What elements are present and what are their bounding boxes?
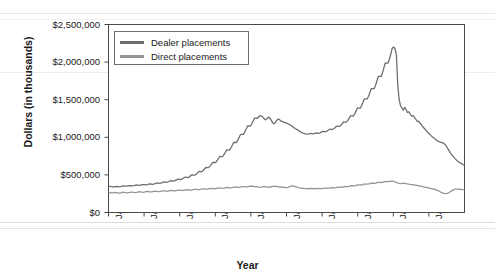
legend-label-direct: Direct placements: [151, 51, 227, 62]
legend-item-dealer: Dealer placements: [120, 35, 230, 49]
chart-legend: Dealer placements Direct placements: [114, 31, 249, 65]
chart-figure: Dollars (in thousands) Year $0$500,000$1…: [0, 0, 495, 280]
legend-swatch-dealer: [120, 41, 144, 44]
legend-label-dealer: Dealer placements: [151, 37, 230, 48]
legend-swatch-direct: [120, 55, 144, 58]
legend-item-direct: Direct placements: [120, 49, 227, 63]
